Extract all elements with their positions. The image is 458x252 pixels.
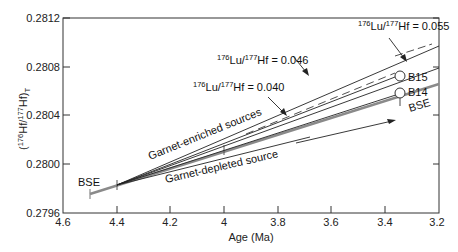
x-tick-label: 4 (221, 216, 227, 228)
label-b15: B15 (408, 71, 428, 83)
y-tick-label: 0.2808 (26, 61, 60, 73)
x-axis-label: Age (Ma) (228, 231, 273, 243)
label-lu-0046: 176Lu/177Hf = 0.046 (217, 53, 308, 66)
y-tick-label: 0.2812 (26, 12, 60, 24)
line-0.055 (117, 46, 439, 185)
x-tick-label: 4.6 (55, 216, 70, 228)
x-tick-label: 4.2 (162, 216, 177, 228)
x-tick-label: 3.6 (323, 216, 338, 228)
x-tick-label: 3.4 (377, 216, 392, 228)
x-tick-label: 4.4 (109, 216, 124, 228)
x-tick-label: 3.2 (429, 216, 444, 228)
label-bse-right: BSE (407, 96, 432, 114)
line-0.040 (117, 77, 395, 185)
y-tick-label: 0.2804 (26, 109, 60, 121)
y-tick-label: 0.2800 (26, 158, 60, 170)
dashed-line-055 (395, 44, 432, 56)
line-b14 (117, 92, 405, 185)
x-tick-label: 3.8 (270, 216, 285, 228)
point-b15 (395, 71, 405, 81)
label-bse-left: BSE (78, 176, 100, 188)
bse-line (90, 84, 439, 199)
hf-isotope-chart: 0.2812 0.2808 0.2804 0.2800 0.2796 4.6 4… (0, 0, 458, 252)
point-b14 (395, 88, 405, 98)
annotation-arrows (268, 38, 407, 116)
label-lu-0055: 176Lu/177Hf = 0.055 (358, 19, 449, 32)
x-axis: 4.6 4.4 4.2 4 3.8 3.6 3.4 3.2 Age (Ma) (55, 206, 444, 243)
label-lu-0040: 176Lu/177Hf = 0.040 (193, 80, 284, 93)
